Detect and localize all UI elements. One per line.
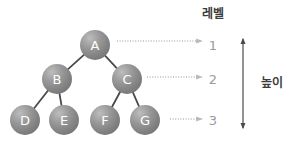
tree-node-a[interactable]: A: [80, 30, 110, 60]
tree-diagram-svg: ABCDEFG 123 레벨 높이: [0, 0, 294, 147]
tree-edge: [67, 54, 86, 71]
tree-node-b[interactable]: B: [42, 64, 72, 94]
node-label: A: [91, 38, 100, 53]
tree-edge: [59, 92, 62, 107]
node-label: B: [53, 72, 62, 87]
tree-edge: [33, 89, 49, 110]
tree-edge: [104, 54, 118, 69]
tree-nodes: ABCDEFG: [10, 30, 160, 135]
level-number: 3: [209, 113, 217, 128]
tree-diagram-canvas: ABCDEFG 123 레벨 높이: [0, 0, 294, 147]
tree-edge: [132, 91, 140, 108]
node-label: D: [20, 113, 30, 128]
tree-node-g[interactable]: G: [130, 105, 160, 135]
tree-node-f[interactable]: F: [90, 105, 120, 135]
tree-node-e[interactable]: E: [49, 105, 79, 135]
level-number: 2: [209, 72, 217, 87]
level-number: 1: [209, 38, 217, 53]
tree-node-c[interactable]: C: [112, 64, 142, 94]
level-axis-label: 레벨: [202, 6, 224, 21]
node-label: G: [140, 113, 150, 128]
node-label: F: [101, 113, 108, 128]
node-label: E: [60, 113, 68, 128]
tree-node-d[interactable]: D: [10, 105, 40, 135]
level-numbers: 123: [209, 38, 217, 128]
height-axis-label: 높이: [261, 75, 283, 90]
tree-edge: [111, 90, 121, 108]
node-label: C: [122, 72, 131, 87]
